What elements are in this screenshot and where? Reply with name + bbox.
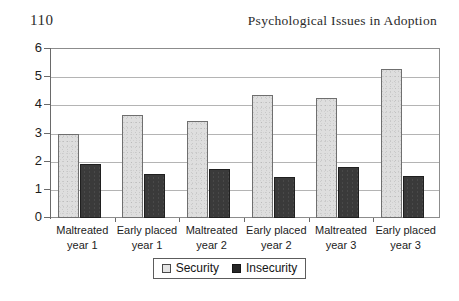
bar-group: [245, 49, 310, 218]
bar-insecurity[interactable]: [403, 176, 424, 218]
bars-layer: [51, 49, 439, 218]
bar-group: [374, 49, 439, 218]
x-axis-tick-label: Maltreatedyear 2: [175, 223, 248, 252]
bar-security[interactable]: [381, 69, 402, 218]
y-axis-tick-label: 6: [16, 40, 42, 55]
y-axis-tick: [44, 133, 50, 134]
x-label-line-2: year 1: [111, 238, 184, 253]
x-axis-tick: [115, 218, 116, 222]
x-label-line-1: Early placed: [117, 224, 178, 236]
y-axis-tick: [44, 48, 50, 49]
y-axis-tick: [44, 104, 50, 105]
legend-swatch-insecurity-icon: [232, 264, 241, 273]
x-label-line-2: year 3: [369, 238, 442, 253]
x-axis-tick-label: Early placedyear 1: [111, 223, 184, 252]
x-axis-tick: [309, 218, 310, 222]
bar-chart: 0123456 Maltreatedyear 1Early placedyear…: [0, 34, 459, 292]
y-axis-tick: [44, 189, 50, 190]
legend-item-insecurity[interactable]: Insecurity: [232, 261, 297, 275]
legend-label-insecurity: Insecurity: [246, 261, 297, 275]
y-axis-tick: [44, 161, 50, 162]
bar-security[interactable]: [122, 115, 143, 218]
x-axis-tick-label: Maltreatedyear 3: [305, 223, 378, 252]
y-axis-tick: [44, 76, 50, 77]
bar-group: [51, 49, 116, 218]
bar-insecurity[interactable]: [209, 169, 230, 218]
x-label-line-1: Maltreated: [186, 224, 238, 236]
x-axis-tick: [373, 218, 374, 222]
y-axis-tick: [44, 217, 50, 218]
bar-security[interactable]: [316, 98, 337, 218]
x-label-line-2: year 1: [46, 238, 119, 253]
y-axis-tick-label: 0: [16, 209, 42, 224]
page-number: 110: [30, 12, 53, 29]
x-axis-tick: [179, 218, 180, 222]
x-axis-tick-label: Early placedyear 2: [240, 223, 313, 252]
legend-box: Security Insecurity: [153, 258, 307, 279]
chart-legend: Security Insecurity: [0, 258, 459, 279]
x-axis-tick-label: Early placedyear 3: [369, 223, 442, 252]
x-label-line-2: year 2: [175, 238, 248, 253]
page-header: 110 Psychological Issues in Adoption: [0, 12, 459, 34]
x-axis-labels: Maltreatedyear 1Early placedyear 1Maltre…: [50, 223, 440, 257]
bar-security[interactable]: [187, 121, 208, 218]
x-label-line-2: year 2: [240, 238, 313, 253]
bar-insecurity[interactable]: [144, 174, 165, 218]
y-axis-tick-label: 2: [16, 153, 42, 168]
legend-swatch-security-icon: [162, 264, 171, 273]
x-label-line-1: Early placed: [375, 224, 436, 236]
y-axis-labels: 0123456: [8, 48, 42, 218]
x-label-line-2: year 3: [305, 238, 378, 253]
y-axis-tick-label: 5: [16, 68, 42, 83]
bar-group: [180, 49, 245, 218]
running-head: Psychological Issues in Adoption: [248, 13, 437, 29]
x-label-line-1: Maltreated: [315, 224, 367, 236]
bar-insecurity[interactable]: [80, 164, 101, 218]
x-label-line-1: Maltreated: [56, 224, 108, 236]
bar-security[interactable]: [58, 134, 79, 219]
bar-group: [116, 49, 181, 218]
x-axis-tick-label: Maltreatedyear 1: [46, 223, 119, 252]
y-axis-tick-label: 4: [16, 96, 42, 111]
y-axis-tick-label: 1: [16, 181, 42, 196]
legend-label-security: Security: [176, 261, 219, 275]
x-label-line-1: Early placed: [246, 224, 307, 236]
y-axis-tick-label: 3: [16, 125, 42, 140]
x-axis-tick: [244, 218, 245, 222]
bar-insecurity[interactable]: [338, 167, 359, 218]
bar-group: [310, 49, 375, 218]
bar-insecurity[interactable]: [274, 177, 295, 218]
bar-security[interactable]: [252, 95, 273, 218]
legend-item-security[interactable]: Security: [162, 261, 219, 275]
